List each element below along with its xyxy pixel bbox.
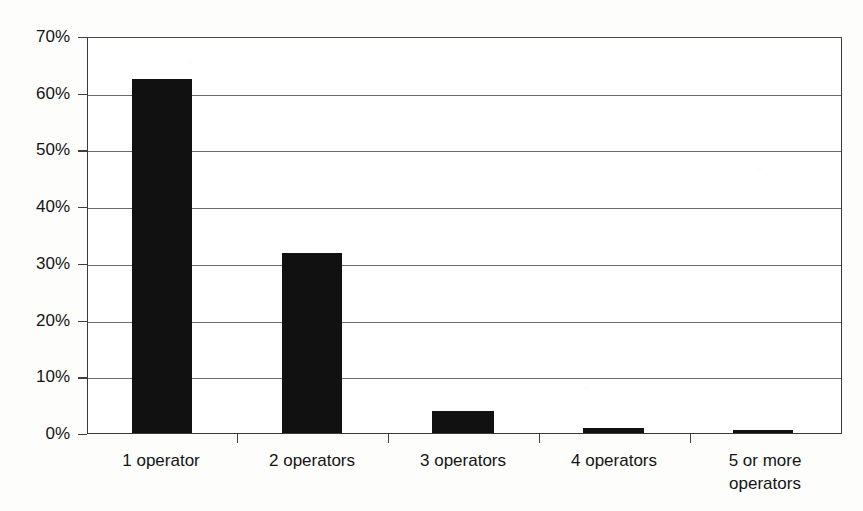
y-axis: 70% 60% 50% 40% 30% 20% 10% 0% bbox=[0, 0, 80, 511]
y-tick-label-60: 60% bbox=[36, 84, 70, 104]
y-tick-label-40: 40% bbox=[36, 197, 70, 217]
plot-area bbox=[87, 37, 842, 434]
bar-chart: 70% 60% 50% 40% 30% 20% 10% 0% 1 operato… bbox=[0, 0, 863, 511]
y-tick-label-20: 20% bbox=[36, 311, 70, 331]
x-label-1-operator: 1 operator bbox=[122, 449, 200, 472]
x-label-line-2: operators bbox=[729, 472, 802, 495]
y-tick-label-70: 70% bbox=[36, 27, 70, 47]
x-tickmark-3 bbox=[539, 434, 540, 443]
x-label-line-1: 4 operators bbox=[571, 451, 657, 470]
gridline-20 bbox=[88, 322, 841, 323]
gridline-30 bbox=[88, 265, 841, 266]
x-label-line-1: 3 operators bbox=[420, 451, 506, 470]
bar-2-operators bbox=[282, 253, 342, 433]
bar-5-or-more-operators bbox=[733, 430, 793, 433]
bar-1-operator bbox=[132, 79, 192, 433]
x-label-line-1: 5 or more bbox=[729, 451, 802, 470]
x-label-line-1: 2 operators bbox=[269, 451, 355, 470]
y-tick-label-30: 30% bbox=[36, 254, 70, 274]
y-tickmark-70 bbox=[78, 37, 87, 38]
x-tickmark-2 bbox=[388, 434, 389, 443]
y-tickmark-50 bbox=[78, 150, 87, 151]
y-tickmark-30 bbox=[78, 264, 87, 265]
x-tickmark-1 bbox=[237, 434, 238, 443]
y-tickmark-0 bbox=[78, 434, 87, 435]
y-tickmark-20 bbox=[78, 321, 87, 322]
gridline-40 bbox=[88, 208, 841, 209]
x-label-2-operators: 2 operators bbox=[269, 449, 355, 472]
x-tickmark-4 bbox=[690, 434, 691, 443]
bar-4-operators bbox=[583, 428, 644, 433]
y-tick-label-10: 10% bbox=[36, 367, 70, 387]
x-label-4-operators: 4 operators bbox=[571, 449, 657, 472]
y-tick-label-0: 0% bbox=[45, 424, 70, 444]
bar-3-operators bbox=[432, 411, 494, 433]
gridline-60 bbox=[88, 95, 841, 96]
y-tick-label-50: 50% bbox=[36, 140, 70, 160]
x-label-5-or-more-operators: 5 or more operators bbox=[729, 449, 802, 495]
y-tickmark-60 bbox=[78, 94, 87, 95]
x-label-3-operators: 3 operators bbox=[420, 449, 506, 472]
gridline-50 bbox=[88, 151, 841, 152]
gridline-10 bbox=[88, 378, 841, 379]
x-label-line-1: 1 operator bbox=[122, 451, 200, 470]
y-tickmark-10 bbox=[78, 377, 87, 378]
y-tickmark-40 bbox=[78, 207, 87, 208]
